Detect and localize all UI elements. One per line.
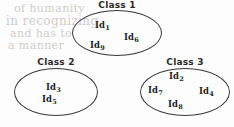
member-prefix: Id	[124, 32, 134, 42]
class-1-member-1: Id6	[124, 32, 139, 42]
member-subscript: 1	[105, 24, 110, 32]
class-grouping-diagram: of humanity in recognizing and has to a …	[0, 0, 234, 127]
class-1-member-2: Id9	[90, 40, 105, 50]
member-prefix: Id	[199, 86, 209, 96]
member-subscript: 8	[178, 103, 183, 111]
member-subscript: 7	[158, 89, 163, 97]
class-2-member-0: Id3	[46, 82, 61, 92]
member-subscript: 2	[179, 75, 184, 83]
class-3-member-2: Id4	[199, 86, 214, 96]
class-1-title: Class 1	[90, 0, 144, 10]
class-3-title: Class 3	[157, 57, 213, 67]
member-prefix: Id	[148, 85, 158, 95]
member-prefix: Id	[169, 71, 179, 81]
member-subscript: 3	[56, 86, 61, 94]
class-3-member-1: Id7	[148, 85, 163, 95]
scan-ghost-smudge	[150, 112, 154, 123]
member-prefix: Id	[168, 99, 178, 109]
member-prefix: Id	[90, 40, 100, 50]
class-1-member-0: Id1	[95, 20, 110, 30]
member-prefix: Id	[46, 82, 56, 92]
member-subscript: 6	[134, 36, 139, 44]
class-2-member-1: Id5	[42, 94, 57, 104]
class-3-member-3: Id8	[168, 99, 183, 109]
scan-ghost-text: a manner	[8, 39, 64, 52]
member-prefix: Id	[95, 20, 105, 30]
class-1-ellipse	[72, 10, 162, 56]
member-prefix: Id	[42, 94, 52, 104]
member-subscript: 5	[52, 98, 57, 106]
member-subscript: 9	[100, 44, 105, 52]
member-subscript: 4	[209, 90, 214, 98]
class-3-member-0: Id2	[169, 71, 184, 81]
class-2-title: Class 2	[29, 57, 83, 67]
